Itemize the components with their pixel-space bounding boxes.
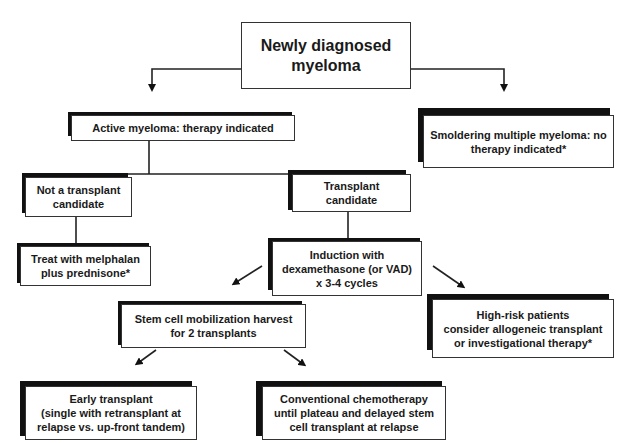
node-melphalan-prednisone: Treat with melphalan plus prednisone* [20,246,151,286]
node-active-myeloma: Active myeloma: therapy indicated [71,115,295,141]
node-not-transplant-candidate: Not a transplant candidate [25,177,132,217]
node-transplant-candidate: Transplant candidate [292,174,411,212]
node-early-transplant: Early transplant (single with retranspla… [25,386,197,440]
node-smoldering-myeloma: Smoldering multiple myeloma: no therapy … [423,115,614,168]
node-high-risk-patients: High-risk patients consider allogeneic t… [432,299,614,358]
node-stem-cell-mobilization: Stem cell mobilization harvest for 2 tra… [121,304,306,348]
node-conventional-chemotherapy: Conventional chemotherapy until plateau … [262,386,446,440]
node-newly-diagnosed-myeloma: Newly diagnosed myeloma [241,22,411,89]
node-induction-dexamethasone: Induction with dexamethasone (or VAD) x … [272,241,422,296]
